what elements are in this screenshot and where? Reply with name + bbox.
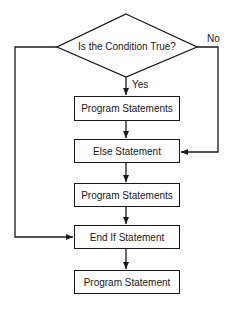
box-label: Else Statement: [93, 146, 161, 157]
no-label: No: [207, 33, 220, 44]
box-label: Program Statements: [81, 103, 173, 114]
program-statements-box-1: Program Statements: [74, 96, 180, 121]
decision-label: Is the Condition True?: [57, 41, 197, 52]
program-statement-box-3: Program Statement: [74, 270, 180, 294]
box-label: Program Statements: [81, 190, 173, 201]
bypass-arrow: [15, 47, 73, 237]
box-label: Program Statement: [84, 277, 171, 288]
yes-label: Yes: [132, 79, 148, 90]
program-statements-box-2: Program Statements: [74, 183, 180, 207]
box-label: End If Statement: [90, 232, 165, 243]
else-statement-box: Else Statement: [74, 139, 180, 163]
end-if-statement-box: End If Statement: [74, 225, 180, 249]
no-arrow: [181, 47, 218, 152]
